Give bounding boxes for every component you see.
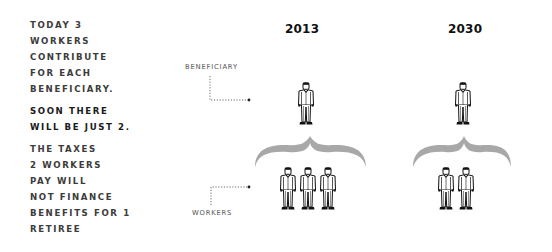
workers-leader-line-icon <box>211 187 248 205</box>
curly-brace-icon-2013 <box>255 136 366 167</box>
person-in-suit-icon-beneficiary-2030 <box>453 82 473 126</box>
workers-leader-dot-icon <box>248 186 251 189</box>
person-in-suit-icon-worker-2013-2 <box>298 167 318 211</box>
person-in-suit-icon-worker-2013-1 <box>278 167 298 211</box>
connectors-and-braces <box>0 0 552 252</box>
person-in-suit-icon-worker-2030-2 <box>456 167 476 211</box>
person-in-suit-icon-worker-2013-3 <box>318 167 338 211</box>
person-in-suit-icon-worker-2030-1 <box>436 167 456 211</box>
curly-brace-icon-2030 <box>413 136 511 167</box>
beneficiary-leader-line-icon <box>210 76 248 100</box>
worker-to-beneficiary-ratio-diagram: TODAY 3 WORKERS CONTRIBUTE FOR EACH BENE… <box>0 0 552 252</box>
person-in-suit-icon-beneficiary-2013 <box>296 82 316 126</box>
beneficiary-leader-dot-icon <box>248 99 251 102</box>
